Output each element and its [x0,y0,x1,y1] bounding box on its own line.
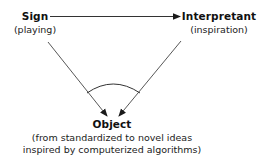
edge-interpretant-to-object [119,41,181,116]
node-object: Object (from standardized to novel ideas… [12,119,212,155]
object-title: Object [12,119,212,130]
object-subtitle-line1: (from standardized to novel ideas [12,133,212,143]
object-subtitle-line2: inspired by computerized algorithms) [12,145,212,155]
edge-sign-to-object [48,42,107,116]
interpretant-title: Interpretant [181,11,257,22]
sign-subtitle: (playing) [6,25,64,35]
interpretant-subtitle: (inspiration) [181,25,257,35]
node-sign: Sign (playing) [6,11,64,34]
node-interpretant: Interpretant (inspiration) [181,11,257,34]
sign-title: Sign [6,11,64,22]
angle-arc [87,84,140,93]
